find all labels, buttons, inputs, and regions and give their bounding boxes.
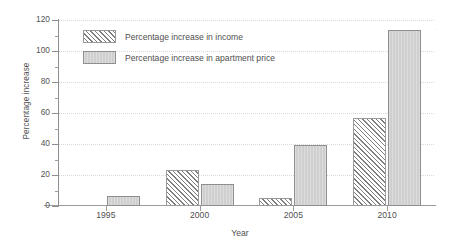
y-tick-0 xyxy=(52,206,59,207)
gridline-120 xyxy=(59,20,434,21)
y-tick-label-0: 0 xyxy=(8,200,50,210)
x-tick-label-1995: 1995 xyxy=(76,210,136,220)
legend-label-income: Percentage increase in income xyxy=(125,32,243,42)
bar-2010-apartment-price xyxy=(388,30,421,206)
y-tick-label-20: 20 xyxy=(8,169,50,179)
y-tick-20 xyxy=(52,175,59,176)
bar-1995-apartment-price xyxy=(107,196,140,206)
y-tick-label-100: 100 xyxy=(8,45,50,55)
y-tick-120 xyxy=(52,20,59,21)
chart-legend: Percentage increase in income Percentage… xyxy=(83,30,275,64)
y-tick-label-80: 80 xyxy=(8,76,50,86)
y-tick-60 xyxy=(52,113,59,114)
y-tick-label-120: 120 xyxy=(8,14,50,24)
y-axis-title: Percentage increase xyxy=(22,16,36,186)
legend-item-apartment-price: Percentage increase in apartment price xyxy=(83,51,275,64)
x-axis-title: Year xyxy=(45,228,435,238)
x-tick-label-2005: 2005 xyxy=(263,210,323,220)
bar-2000-income xyxy=(166,170,199,206)
scan-artifact-mark: · xyxy=(436,26,438,32)
x-tick-label-2000: 2000 xyxy=(170,210,230,220)
hatched-swatch-icon xyxy=(83,30,116,43)
bar-2000-apartment-price xyxy=(201,184,234,206)
bar-2005-income xyxy=(259,198,292,206)
y-tick-80 xyxy=(52,82,59,83)
gray-swatch-icon xyxy=(83,51,116,64)
bar-2005-apartment-price xyxy=(294,145,327,206)
bar-chart: Percentage increase 020406080100120 1995… xyxy=(0,0,454,251)
y-tick-40 xyxy=(52,144,59,145)
legend-item-income: Percentage increase in income xyxy=(83,30,275,43)
bar-2010-income xyxy=(353,118,386,206)
y-tick-label-40: 40 xyxy=(8,138,50,148)
gridline-60 xyxy=(59,113,434,114)
y-tick-100 xyxy=(52,51,59,52)
y-tick-label-60: 60 xyxy=(8,107,50,117)
x-tick-label-2010: 2010 xyxy=(357,210,417,220)
gridline-80 xyxy=(59,82,434,83)
legend-label-apartment-price: Percentage increase in apartment price xyxy=(125,53,275,63)
